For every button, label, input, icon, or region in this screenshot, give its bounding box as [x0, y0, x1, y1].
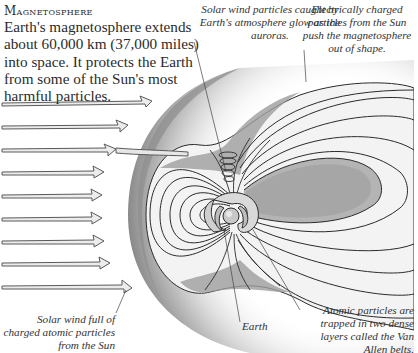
- caption-solar-wind: Solar wind full of charged atomic partic…: [3, 313, 115, 352]
- caption-charged-particles: Electrically charged particles from the …: [296, 3, 418, 55]
- earth: [223, 208, 239, 224]
- caption-earth: Earth: [242, 320, 267, 333]
- caption-van-allen-belts: Atomic particles are trapped in two dens…: [302, 304, 414, 353]
- diagram-title: Magnetosphere: [4, 4, 93, 18]
- intro-paragraph: Earth's magnetosphere extends about 60,0…: [4, 18, 214, 104]
